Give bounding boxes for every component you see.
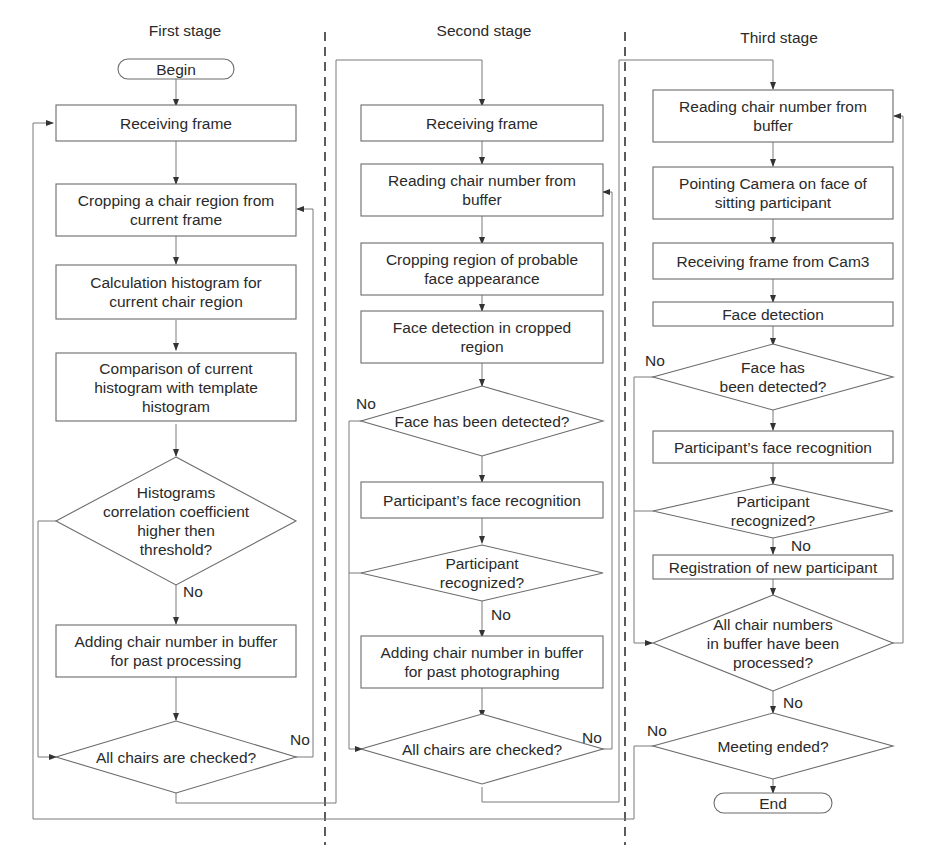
decision-diamond <box>653 344 893 410</box>
node-text-line: Face has been detected? <box>395 413 570 430</box>
label-s1-corr-no: No <box>183 583 203 600</box>
flowchart: First stage Second stage Third stage <box>0 0 928 853</box>
node-text-line: for past photographing <box>404 663 559 680</box>
node-text-line: Reading chair number from <box>679 98 867 115</box>
node-s1-crop: Cropping a chair region fromcurrent fram… <box>56 184 296 236</box>
node-s2-recog: Participant’s face recognition <box>361 482 603 518</box>
node-s3-all: All chair numbersin buffer have beenproc… <box>653 595 893 691</box>
label-s3-all-no: No <box>783 694 803 711</box>
node-text-line: Cropping a chair region from <box>78 192 274 209</box>
node-text-line: Participant’s face recognition <box>383 492 581 509</box>
node-text-line: Participant <box>736 493 810 510</box>
node-end: End <box>714 793 832 813</box>
node-s3-detect: Face detection <box>653 302 893 326</box>
node-text-line: Histograms <box>137 484 216 501</box>
node-s2-read: Reading chair number frombuffer <box>361 164 603 216</box>
node-s3-point: Pointing Camera on face ofsitting partic… <box>653 167 893 219</box>
node-text-line: Meeting ended? <box>717 738 829 755</box>
label-s3-meeting-no: No <box>647 722 667 739</box>
node-s2-add: Adding chair number in bufferfor past ph… <box>361 636 603 688</box>
node-text-line: threshold? <box>140 541 213 558</box>
edge-s1all-no-crop <box>294 209 313 757</box>
node-s1-all: All chairs are checked? <box>56 721 296 793</box>
node-text-line: Registration of new participant <box>669 559 878 576</box>
node-text-line: Receiving frame from Cam3 <box>677 253 870 270</box>
node-text-line: Calculation histogram for <box>90 274 261 291</box>
node-text-line: correlation coefficient <box>103 503 250 520</box>
node-s3-recog: Participant’s face recognition <box>653 431 893 463</box>
node-text-line: Receiving frame <box>120 115 232 132</box>
node-text-line: processed? <box>733 654 814 671</box>
stage-title-second: Second stage <box>437 22 532 39</box>
node-text-line: Face detection in cropped <box>393 319 571 336</box>
node-s3-register: Registration of new participant <box>653 555 893 579</box>
label-s3-recognized-no: No <box>791 537 811 554</box>
node-text-line: histogram <box>142 398 210 415</box>
node-s2-crop: Cropping region of probableface appearan… <box>361 243 603 295</box>
node-text-line: buffer <box>753 117 792 134</box>
node-text-line: higher then <box>137 522 215 539</box>
edge-s3detected-no-all <box>634 377 654 643</box>
node-text-line: current frame <box>130 211 222 228</box>
node-text-line: Participant’s face recognition <box>674 439 872 456</box>
node-text-line: for past processing <box>111 652 242 669</box>
node-text-line: recognized? <box>731 512 816 529</box>
node-text-line: Adding chair number in buffer <box>380 644 583 661</box>
node-text-line: Face has <box>741 359 805 376</box>
node-s2-recognized: Participantrecognized? <box>361 545 603 601</box>
node-text-line: Begin <box>156 61 196 78</box>
node-s2-all: All chairs are checked? <box>361 714 603 784</box>
node-text-line: Adding chair number in buffer <box>74 633 277 650</box>
node-text-line: Pointing Camera on face of <box>679 175 868 192</box>
node-text-line: current chair region <box>109 293 243 310</box>
node-text-line: Reading chair number from <box>388 172 576 189</box>
decision-diamond <box>56 457 296 585</box>
node-s3-read: Reading chair number frombuffer <box>653 90 893 142</box>
node-text-line: histogram with template <box>94 379 258 396</box>
node-text-line: been detected? <box>720 378 827 395</box>
node-text-line: Receiving frame <box>426 115 538 132</box>
node-s3-detected: Face hasbeen detected? <box>653 344 893 410</box>
label-s2-recognized-no: No <box>491 606 511 623</box>
node-text-line: Participant <box>445 555 519 572</box>
decision-diamond <box>361 545 603 601</box>
nodes: BeginReceiving frameCropping a chair reg… <box>56 59 893 813</box>
node-s1-receive: Receiving frame <box>56 105 296 141</box>
node-s1-add: Adding chair number in bufferfor past pr… <box>56 625 296 677</box>
label-s2-all-no: No <box>582 729 602 746</box>
node-text-line: region <box>460 338 503 355</box>
edge-corr-yes-all <box>38 521 56 757</box>
node-s3-receive: Receiving frame from Cam3 <box>653 243 893 279</box>
stage-title-first: First stage <box>149 22 221 39</box>
stage-title-third: Third stage <box>740 29 818 46</box>
node-s1-corr: Histogramscorrelation coefficienthigher … <box>56 457 296 585</box>
node-s1-compare: Comparison of currenthistogram with temp… <box>56 353 296 421</box>
node-text-line: sitting participant <box>715 194 832 211</box>
node-text-line: face appearance <box>424 270 539 287</box>
node-text-line: Cropping region of probable <box>386 251 578 268</box>
node-text-line: End <box>759 795 787 812</box>
node-s1-hist: Calculation histogram forcurrent chair r… <box>56 265 296 319</box>
node-text-line: in buffer have been <box>707 635 839 652</box>
node-s3-meeting: Meeting ended? <box>653 713 893 779</box>
node-text-line: buffer <box>462 191 501 208</box>
label-s3-detected-no: No <box>645 352 665 369</box>
node-s2-detected: Face has been detected? <box>361 386 603 456</box>
node-text-line: All chairs are checked? <box>402 741 563 758</box>
label-s2-detected-no: No <box>356 395 376 412</box>
label-s1-all-no: No <box>290 731 310 748</box>
node-text-line: All chair numbers <box>713 616 833 633</box>
node-text-line: All chairs are checked? <box>96 749 257 766</box>
node-s3-recognized: Participantrecognized? <box>653 484 893 538</box>
node-s2-detect: Face detection in croppedregion <box>361 311 603 363</box>
node-text-line: recognized? <box>440 574 525 591</box>
node-text-line: Face detection <box>722 306 824 323</box>
node-begin: Begin <box>118 59 234 79</box>
edge-s3all-yes-read <box>892 116 903 643</box>
node-s2-receive: Receiving frame <box>361 105 603 141</box>
edge-s2detected-no-all <box>349 421 362 749</box>
node-text-line: Comparison of current <box>99 360 253 377</box>
